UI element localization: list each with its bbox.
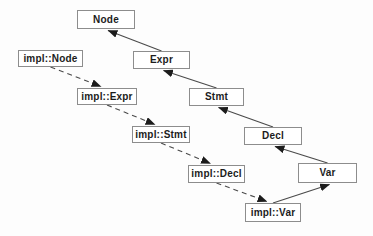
class-box-impl-expr-label: impl::Expr	[81, 92, 132, 102]
class-box-impl-expr: impl::Expr	[77, 88, 137, 105]
edge-expr-to-node	[108, 31, 162, 52]
edge-implexpr-to-implstmt	[107, 105, 155, 125]
class-box-impl-stmt-label: impl::Stmt	[135, 130, 186, 140]
class-box-expr: Expr	[133, 51, 190, 69]
edge-implstmt-to-impldecl	[161, 143, 211, 164]
class-box-impl-decl: impl::Decl	[188, 165, 245, 183]
class-box-decl: Decl	[244, 127, 302, 145]
class-box-impl-node: impl::Node	[18, 50, 83, 67]
edge-decl-to-stmt	[219, 108, 274, 128]
class-box-var-label: Var	[319, 168, 335, 178]
edge-impldecl-to-implvar	[217, 183, 268, 202]
class-box-impl-var-label: impl::Var	[251, 208, 296, 218]
class-box-stmt-label: Stmt	[205, 92, 228, 102]
edges-layer	[0, 0, 373, 236]
class-box-stmt: Stmt	[189, 88, 244, 106]
edge-implvar-to-var	[273, 185, 330, 204]
edge-stmt-to-expr	[164, 71, 217, 89]
class-box-impl-node-label: impl::Node	[23, 54, 77, 64]
class-box-node: Node	[77, 10, 135, 29]
class-box-var: Var	[298, 163, 357, 183]
class-box-node-label: Node	[93, 15, 119, 25]
class-hierarchy-diagram: Node Expr Stmt Decl Var impl::Node impl:…	[0, 0, 373, 236]
class-box-expr-label: Expr	[150, 55, 173, 65]
class-box-impl-stmt: impl::Stmt	[132, 126, 190, 143]
class-box-impl-var: impl::Var	[245, 203, 301, 222]
edge-implnode-to-implexpr	[51, 67, 102, 87]
class-box-impl-decl-label: impl::Decl	[191, 169, 241, 179]
class-box-decl-label: Decl	[262, 131, 284, 141]
edge-var-to-decl	[275, 147, 328, 164]
